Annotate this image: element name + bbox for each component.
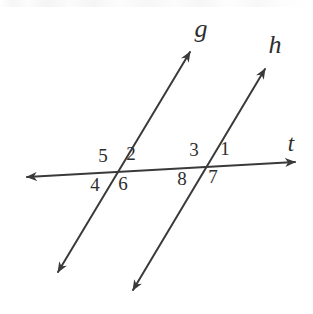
line-label-g: g [195, 16, 208, 42]
angle-label-3: 3 [189, 140, 199, 159]
line-label-t: t [288, 132, 294, 155]
angle-label-1: 1 [220, 139, 230, 158]
angle-label-7: 7 [208, 167, 218, 186]
angle-label-4: 4 [90, 175, 100, 194]
line-h [133, 69, 265, 290]
line-g [58, 52, 190, 272]
parallel-lines-diagram [0, 0, 313, 314]
angle-label-5: 5 [98, 146, 108, 165]
line-label-h: h [269, 32, 282, 58]
angle-label-2: 2 [126, 144, 136, 163]
lines-group [27, 52, 295, 290]
angle-label-6: 6 [118, 174, 128, 193]
line-t-transversal [27, 162, 295, 177]
angle-label-8: 8 [177, 169, 187, 188]
geometry-figure: g h t 1 2 3 4 5 6 7 8 [0, 0, 313, 314]
